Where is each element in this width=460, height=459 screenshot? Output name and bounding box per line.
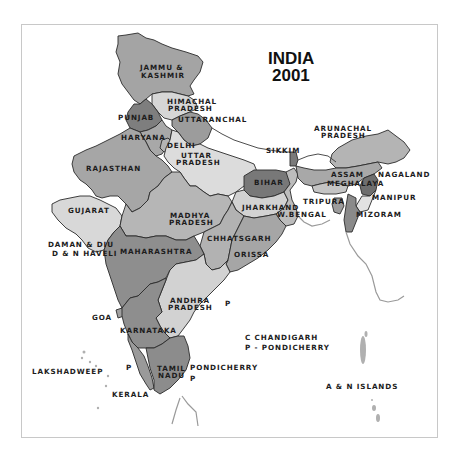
label-uttar-pradesh-2: PRADESH [176, 158, 221, 167]
label-manipur: MANIPUR [372, 193, 416, 202]
lakshadweep-islands [81, 351, 109, 410]
legend-chandigarh: C CHANDIGARH [245, 333, 318, 342]
label-daman-diu-1: DAMAN & DIU [48, 240, 114, 249]
label-pondicherry: PONDICHERRY [190, 363, 258, 372]
label-delhi: DELHI [167, 141, 196, 150]
india-map: INDIA 2001 JAMMU & KASHMIR HIMACHAL PRAD… [0, 0, 460, 459]
label-daman-diu-2: D & N HAVELI [52, 249, 117, 258]
label-mizoram: MIZORAM [356, 210, 402, 219]
myanmar-coastline [346, 232, 404, 302]
label-lakshadweep: LAKSHADWEEP [32, 367, 103, 376]
map-title-line2: 2001 [272, 66, 310, 85]
label-kerala: KERALA [112, 390, 149, 399]
label-tamil-nadu-2: NADU [158, 371, 185, 380]
label-orissa: ORISSA [234, 250, 269, 259]
label-tripura: TRIPURA [303, 197, 345, 206]
label-arunachal-2: PRADESH [321, 131, 366, 140]
label-himachal-2: PRADESH [168, 104, 213, 113]
label-west-bengal: W.BENGAL [277, 210, 327, 219]
label-gujarat: GUJARAT [68, 206, 110, 215]
label-an-islands: A & N ISLANDS [326, 382, 398, 391]
label-nagaland: NAGALAND [378, 170, 430, 179]
label-rajasthan: RAJASTHAN [86, 164, 141, 173]
label-andhra-2: PRADESH [168, 303, 213, 312]
label-meghalaya: MEGHALAYA [327, 179, 384, 188]
andaman-nicobar-islands [360, 331, 380, 422]
marker-p-yanam: P [225, 299, 231, 308]
label-bihar: BIHAR [254, 178, 284, 187]
label-assam: ASSAM [331, 170, 364, 179]
label-karnataka: KARNATAKA [120, 326, 177, 335]
marker-p-karaikal: P [190, 374, 196, 383]
legend-pondicherry: P - PONDICHERRY [245, 343, 330, 352]
sri-lanka-outline [172, 396, 198, 426]
label-sikkim: SIKKIM [266, 146, 300, 155]
label-jammu-kashmir-2: KASHMIR [141, 71, 185, 80]
label-uttaranchal: UTTARANCHAL [178, 115, 247, 124]
label-maharashtra: MAHARASHTRA [120, 247, 192, 256]
marker-p-mahe: P [126, 363, 132, 372]
label-madhya-pradesh-2: PRADESH [169, 218, 214, 227]
label-goa: GOA [92, 313, 112, 322]
legend: C CHANDIGARH P - PONDICHERRY [245, 333, 330, 352]
label-haryana: HARYANA [121, 133, 166, 142]
label-punjab: PUNJAB [118, 113, 154, 122]
label-chhattisgarh: CHHATSGARH [207, 234, 271, 243]
